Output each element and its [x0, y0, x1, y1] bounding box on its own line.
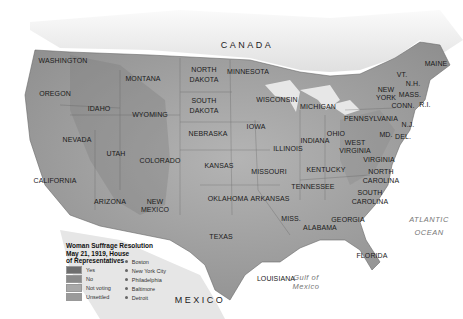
- state-label: TEXAS: [209, 233, 232, 241]
- city-dot-icon: [125, 278, 128, 281]
- state-label: VT.: [397, 71, 407, 79]
- state-label: OHIO: [327, 130, 345, 138]
- city-label: Philadelphia: [132, 277, 162, 283]
- city-dot-icon: [125, 269, 128, 272]
- state-label: OKLAHOMA: [208, 195, 248, 203]
- city-dot-icon: [125, 260, 128, 263]
- swatch-yes: [66, 266, 82, 274]
- state-label: OREGON: [39, 90, 71, 98]
- water-label-atlantic: ATLANTIC: [409, 216, 449, 224]
- legend-city: Baltimore: [111, 285, 166, 293]
- state-label: VIRGINIA: [339, 147, 371, 155]
- state-label: N.J.: [402, 121, 415, 129]
- state-label: YORK: [376, 94, 396, 102]
- state-label: IOWA: [247, 123, 266, 131]
- water-label-mexico: Mexico: [293, 283, 320, 291]
- state-label: N.H.: [406, 80, 420, 88]
- state-label: WASHINGTON: [39, 57, 88, 65]
- state-label: NORTH: [368, 168, 393, 176]
- legend-title-line: May 21, 1919, House: [66, 250, 186, 258]
- state-label: TENNESSEE: [291, 183, 334, 191]
- state-label: NEW: [378, 86, 395, 94]
- state-label: SOUTH: [192, 97, 217, 105]
- legend-item-no: No: [66, 275, 111, 283]
- state-label: KANSAS: [205, 162, 234, 170]
- water-label-gulf-of: Gulf of: [293, 274, 319, 282]
- state-label: IDAHO: [88, 105, 111, 113]
- city-label: Boston: [132, 259, 149, 265]
- legend-item-unsettled: Unsettled: [66, 293, 111, 301]
- state-label: WISCONSIN: [256, 96, 297, 104]
- state-label: LOUISIANA: [257, 275, 295, 283]
- city-dot-icon: [125, 296, 128, 299]
- city-label: Baltimore: [132, 286, 155, 292]
- state-label: DAKOTA: [190, 76, 219, 84]
- state-label: FLORIDA: [356, 252, 387, 260]
- legend-categories: Yes No Not voting Unsettled: [66, 266, 111, 302]
- state-label: DAKOTA: [190, 107, 219, 115]
- state-label: CALIFORNIA: [33, 177, 76, 185]
- legend-label: Yes: [86, 267, 95, 273]
- state-label: KENTUCKY: [307, 166, 346, 174]
- legend-city: New York City: [111, 267, 166, 275]
- state-label: SOUTH: [358, 189, 383, 197]
- legend-title-line: Woman Suffrage Resolution: [66, 242, 186, 250]
- state-label: MISS.: [281, 215, 301, 223]
- state-label: ARKANSAS: [251, 195, 290, 203]
- state-label: ILLINOIS: [273, 145, 303, 153]
- legend-cities: Boston New York City Philadelphia Baltim…: [111, 258, 166, 302]
- legend-label: Unsettled: [86, 294, 109, 300]
- state-label: COLORADO: [140, 157, 181, 165]
- state-label: MINNESOTA: [227, 68, 269, 76]
- state-label: UTAH: [107, 150, 126, 158]
- state-label: NEBRASKA: [189, 130, 228, 138]
- state-label: GEORGIA: [331, 216, 364, 224]
- map-legend: Woman Suffrage Resolution May 21, 1919, …: [66, 242, 186, 302]
- state-label: CAROLINA: [363, 177, 400, 185]
- city-label: Detroit: [132, 295, 148, 301]
- state-label: NEVADA: [63, 136, 92, 144]
- state-label: MEXICO: [141, 206, 169, 214]
- state-label: PENNSYLVANIA: [344, 115, 398, 123]
- state-label: ALABAMA: [303, 224, 337, 232]
- legend-item-yes: Yes: [66, 266, 111, 274]
- state-label: DEL.: [395, 133, 411, 141]
- state-label: WYOMING: [132, 111, 168, 119]
- swatch-not-voting: [66, 284, 82, 292]
- city-dot-icon: [125, 287, 128, 290]
- state-label: INDIANA: [300, 137, 329, 145]
- state-label: WEST: [345, 139, 366, 147]
- state-label: CONN.: [391, 102, 414, 110]
- legend-label: No: [86, 276, 93, 282]
- water-label-ocean: OCEAN: [414, 229, 443, 237]
- state-label: MISSOURI: [251, 168, 286, 176]
- state-label: MD.: [379, 131, 392, 139]
- state-label: ARIZONA: [94, 198, 126, 206]
- country-label-canada: CANADA: [221, 41, 274, 49]
- state-label: MICHIGAN: [300, 103, 336, 111]
- legend-label: Not voting: [86, 285, 111, 291]
- legend-city: Detroit: [111, 294, 166, 302]
- legend-city: Philadelphia: [111, 276, 166, 284]
- legend-city: Boston: [111, 258, 166, 266]
- city-label: New York City: [132, 268, 166, 274]
- state-label: MONTANA: [125, 75, 160, 83]
- swatch-unsettled: [66, 293, 82, 301]
- state-label: R.I.: [419, 101, 430, 109]
- state-label: CAROLINA: [352, 198, 389, 206]
- state-label: MAINE: [425, 60, 448, 68]
- state-label: NORTH: [191, 66, 216, 74]
- legend-item-not-voting: Not voting: [66, 284, 111, 292]
- state-label: VIRGINIA: [363, 156, 395, 164]
- swatch-no: [66, 275, 82, 283]
- state-label: NEW: [147, 198, 164, 206]
- state-label: MASS.: [399, 91, 421, 99]
